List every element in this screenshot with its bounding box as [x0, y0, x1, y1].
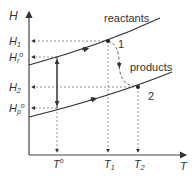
svg-text:H1: H1: [9, 35, 21, 48]
y-tick-h1: H1: [9, 35, 21, 48]
reactants-curve: [29, 18, 160, 65]
svg-text:To: To: [53, 157, 64, 170]
point-2: [136, 85, 140, 89]
svg-text:Hpo: Hpo: [9, 102, 25, 116]
point-1-label: 1: [118, 38, 124, 50]
point-2-label: 2: [148, 90, 154, 102]
dashed-guides: [32, 41, 138, 152]
x-tick-t2: T2: [134, 158, 145, 171]
svg-text:T2: T2: [134, 158, 145, 171]
y-tick-h2: H2: [9, 81, 21, 94]
y-tick-hp0: Hpo: [9, 102, 25, 116]
svg-text:T1: T1: [104, 158, 115, 171]
x-tick-t1: T1: [104, 158, 115, 171]
svg-text:Hro: Hro: [9, 51, 23, 64]
enthalpy-temperature-diagram: H T reactants products 1 2 H1 Hro H2 Hpo…: [0, 0, 194, 178]
products-label: products: [130, 61, 173, 73]
y-axis-label: H: [9, 9, 18, 23]
x-tick-t0: To: [53, 157, 64, 170]
x-axis-label: T: [180, 160, 188, 172]
point-1: [106, 39, 110, 43]
y-tick-hr0: Hro: [9, 51, 23, 64]
reactants-label: reactants: [104, 12, 150, 24]
svg-text:H2: H2: [9, 81, 21, 94]
